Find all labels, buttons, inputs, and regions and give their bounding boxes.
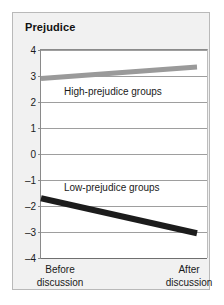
series-line-low-prejudice <box>41 198 197 233</box>
ytick-label: 2 <box>30 97 36 108</box>
ytick-label: 0 <box>30 149 36 160</box>
ytick-label: 1 <box>30 123 36 134</box>
figure-card: Prejudice 43210–1–2–3–4 High-prejudice g… <box>12 12 210 290</box>
xtick-after-line2: discussion <box>166 277 213 290</box>
xtick-after-line1: After <box>166 264 213 277</box>
series-line-high-prejudice <box>41 67 197 79</box>
xtick-label-after: After discussion <box>166 264 213 289</box>
series-group <box>41 50 207 258</box>
plot-area: 43210–1–2–3–4 High-prejudice groups Low-… <box>40 49 208 258</box>
ytick-label: –3 <box>25 227 36 238</box>
ytick-label: 4 <box>30 45 36 56</box>
ytick-label: –4 <box>25 253 36 264</box>
ytick-mark <box>38 258 41 259</box>
ytick-label: –2 <box>25 201 36 212</box>
ytick-label: 3 <box>30 71 36 82</box>
xtick-label-before: Before discussion <box>37 264 84 289</box>
ytick-label: –1 <box>25 175 36 186</box>
page-title: Prejudice <box>25 21 75 33</box>
series-label-high-prejudice: High-prejudice groups <box>64 86 162 97</box>
xtick-before-line1: Before <box>37 264 84 277</box>
xtick-before-line2: discussion <box>37 277 84 290</box>
series-label-low-prejudice: Low-prejudice groups <box>64 182 160 193</box>
gridline <box>41 258 207 259</box>
